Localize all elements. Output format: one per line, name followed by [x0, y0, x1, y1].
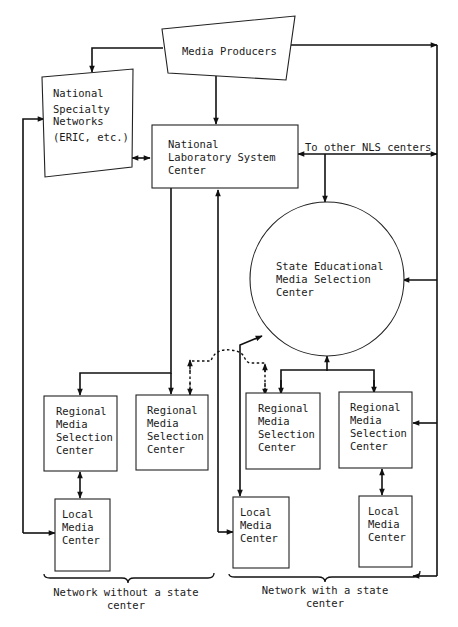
group-without-state-line-1: Network without a state [53, 586, 198, 598]
specialty-line-1: National [53, 87, 104, 99]
node-local-3: Local Media Center [359, 496, 412, 567]
regional1-line-4: Center [56, 444, 94, 456]
state-line-1: State Educational [276, 260, 383, 272]
brace-without-state: Network without a state center [44, 573, 214, 611]
local2-line-1: Local [240, 506, 272, 518]
network-diagram: Media Producers National Specialty Netwo… [0, 0, 458, 627]
specialty-line-3: Networks [53, 115, 104, 127]
edge-dotted-regional2-regional3 [190, 350, 265, 394]
state-line-2: Media Selection [276, 273, 371, 285]
regional1-line-3: Selection [56, 431, 113, 443]
group-with-state-line-2: center [306, 597, 344, 609]
brace-with-state: Network with a state center [229, 571, 420, 609]
regional4-line-1: Regional [350, 401, 401, 413]
node-local-2: Local Media Center [233, 497, 289, 568]
nls-line-3: Center [168, 164, 206, 176]
specialty-line-4: (ERIC, etc.) [53, 131, 129, 143]
local2-line-3: Center [240, 532, 278, 544]
regional2-line-1: Regional [147, 404, 198, 416]
local1-line-3: Center [62, 534, 100, 546]
local3-line-2: Media [368, 518, 400, 530]
node-nls-center: National Laboratory System Center [152, 125, 298, 188]
specialty-line-2: Specialty [53, 103, 110, 115]
edge-state-bus [281, 370, 374, 392]
regional1-line-2: Media [56, 418, 88, 430]
regional3-line-2: Media [258, 415, 290, 427]
node-state-center: State Educational Media Selection Center [250, 202, 404, 356]
local3-line-1: Local [368, 505, 400, 517]
regional4-line-4: Center [350, 440, 388, 452]
local1-line-2: Media [62, 521, 94, 533]
edge-nls-to-regional1 [80, 188, 171, 395]
media-producers-label: Media Producers [182, 45, 277, 57]
svg-text:(ERIC, etc.): (ERIC, etc.) [53, 131, 129, 143]
regional2-line-3: Selection [147, 430, 204, 442]
node-local-1: Local Media Center [55, 499, 110, 571]
edge-producers-to-specialty [92, 48, 163, 72]
nls-line-1: National [168, 138, 219, 150]
regional4-line-3: Selection [350, 427, 407, 439]
group-without-state-line-2: center [107, 599, 145, 611]
regional3-line-3: Selection [258, 428, 315, 440]
state-line-3: Center [276, 286, 314, 298]
node-national-specialty: National Specialty Networks (ERIC, etc.) [42, 69, 133, 177]
regional2-line-2: Media [147, 417, 179, 429]
group-with-state-line-1: Network with a state [262, 584, 388, 596]
regional2-line-4: Center [147, 443, 185, 455]
node-regional-3: Regional Media Selection Center [246, 393, 320, 469]
regional3-line-4: Center [258, 441, 296, 453]
edge-left-to-specialty [23, 119, 44, 533]
regional3-line-1: Regional [258, 402, 309, 414]
local2-line-2: Media [240, 519, 272, 531]
node-regional-4: Regional Media Selection Center [339, 392, 412, 468]
local1-line-1: Local [62, 508, 94, 520]
svg-text:Networks: Networks [53, 115, 104, 127]
node-media-producers: Media Producers [162, 16, 295, 80]
svg-text:Specialty: Specialty [53, 103, 110, 115]
nls-line-2: Laboratory System [168, 151, 275, 163]
regional4-line-2: Media [350, 414, 382, 426]
regional1-line-1: Regional [56, 405, 107, 417]
node-regional-1: Regional Media Selection Center [44, 396, 117, 471]
local3-line-3: Center [368, 531, 406, 543]
to-other-nls-label: To other NLS centers [305, 141, 431, 153]
svg-text:National: National [53, 87, 104, 99]
node-regional-2: Regional Media Selection Center [136, 395, 208, 470]
